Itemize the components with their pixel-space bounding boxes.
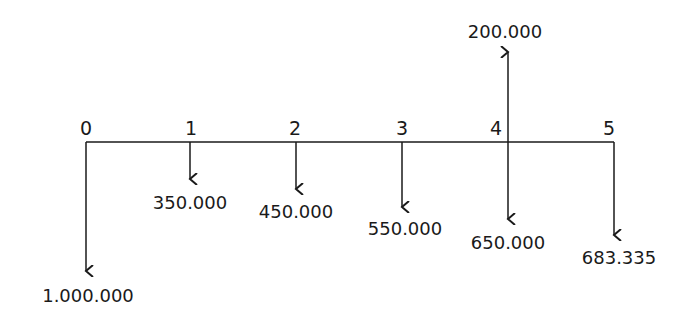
period-label-4: 4 [490, 117, 502, 139]
period-label-2: 2 [289, 117, 301, 139]
period-label-3: 3 [396, 117, 408, 139]
period-label-5: 5 [603, 117, 615, 139]
inflow-amount-4: 200.000 [468, 21, 542, 42]
outflow-amount-2: 450.000 [259, 201, 333, 222]
period-label-0: 0 [80, 117, 92, 139]
outflow-amount-1: 350.000 [153, 192, 227, 213]
cash-flow-diagram: 0 1 2 3 4 5 1.000.000 350.000 450.000 55… [0, 0, 698, 313]
outflow-amount-4: 650.000 [471, 232, 545, 253]
outflow-amount-0: 1.000.000 [42, 285, 134, 306]
outflow-amount-3: 550.000 [368, 218, 442, 239]
period-label-1: 1 [185, 117, 197, 139]
outflow-amount-5: 683.335 [582, 247, 656, 268]
